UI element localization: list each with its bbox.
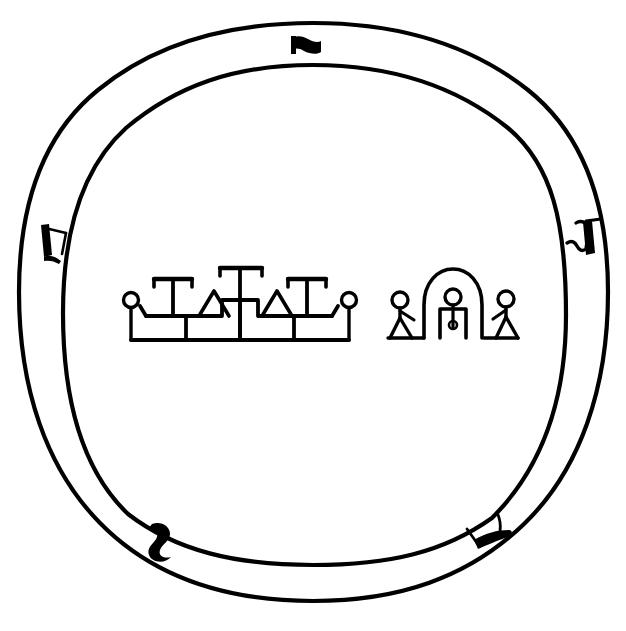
rim-mark-right-zigzag-icon <box>567 219 601 255</box>
outer-rim-circle <box>19 23 608 601</box>
rim-mark-top-flag-icon <box>291 36 321 54</box>
t-post-1 <box>154 279 192 316</box>
attendant-figure-left <box>390 292 414 338</box>
artifact-drawing-canvas <box>0 0 626 631</box>
t-post-3 <box>288 279 326 316</box>
left-glyph-group <box>124 268 357 340</box>
right-terminal-circle-on-stem <box>342 293 357 341</box>
left-terminal-circle-on-stem <box>124 293 139 341</box>
triangle-2 <box>262 291 292 316</box>
platform-right-flare <box>332 306 338 316</box>
t-post-2-tall <box>220 268 262 340</box>
triangle-1 <box>199 291 229 316</box>
platform-left-flare <box>140 306 146 316</box>
rim-double-ring <box>19 23 608 601</box>
right-glyph-group <box>388 269 518 338</box>
central-pictograph-panel <box>124 268 519 340</box>
attendant-figure-right <box>493 291 518 338</box>
rim-mark-left-hook-icon <box>41 224 66 264</box>
artifact-figure <box>0 0 626 631</box>
